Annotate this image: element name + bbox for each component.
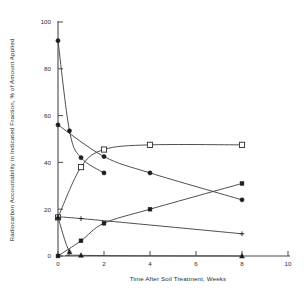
data-point-marker xyxy=(240,182,244,186)
data-point-marker xyxy=(79,216,84,221)
chart-plot-area: 0204060801000246810 Time After Soil Trea… xyxy=(0,0,307,290)
chart-figure: 0204060801000246810 Time After Soil Trea… xyxy=(0,0,307,290)
data-point-marker xyxy=(101,147,106,152)
x-tick-label: 8 xyxy=(240,260,244,267)
series-line-water-soluble-fraction xyxy=(58,217,242,234)
data-point-marker xyxy=(240,231,245,236)
data-point-marker xyxy=(148,207,152,211)
axes-group xyxy=(58,21,290,256)
x-axis-label: Time After Soil Treatment, Weeks xyxy=(130,275,227,282)
data-point-marker xyxy=(102,171,106,175)
y-tick-label: 40 xyxy=(44,159,51,166)
data-series-group xyxy=(58,41,242,256)
x-tick-label: 10 xyxy=(285,260,292,267)
data-point-marker xyxy=(240,198,244,202)
x-tick-label: 6 xyxy=(194,260,198,267)
x-tick-label: 2 xyxy=(102,260,106,267)
y-tick-label: 0 xyxy=(48,252,52,259)
data-point-marker xyxy=(102,154,106,158)
data-point-marker xyxy=(79,156,83,160)
data-point-marker xyxy=(239,142,244,147)
x-tick-label: 4 xyxy=(148,260,152,267)
y-tick-label: 80 xyxy=(44,65,51,72)
series-line-mineralized-fraction xyxy=(58,183,242,256)
data-point-marker xyxy=(148,171,152,175)
tick-labels-group: 0204060801000246810 xyxy=(41,18,292,267)
series-line-parent-compound-decline xyxy=(58,41,104,173)
data-point-marker xyxy=(56,39,60,43)
data-point-marker xyxy=(56,123,60,127)
data-point-marker xyxy=(79,239,83,243)
y-tick-label: 60 xyxy=(44,112,51,119)
x-tick-label: 0 xyxy=(56,260,60,267)
series-line-soil-bound-residue xyxy=(58,145,242,218)
ticks-group xyxy=(58,22,288,256)
y-tick-label: 20 xyxy=(44,206,51,213)
data-point-marker xyxy=(102,221,106,225)
data-point-marker xyxy=(147,142,152,147)
data-point-marker xyxy=(67,129,71,133)
y-tick-label: 100 xyxy=(41,18,52,25)
data-point-marker xyxy=(78,164,83,169)
y-axis-label: Radiocarbon Accountability in Indicated … xyxy=(8,38,15,241)
data-point-marker xyxy=(56,254,60,258)
